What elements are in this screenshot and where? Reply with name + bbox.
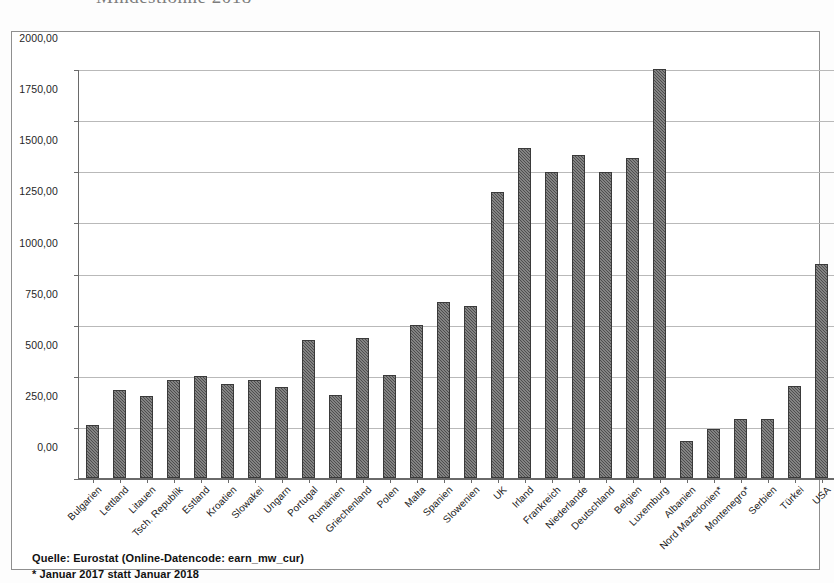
bar: [761, 419, 774, 478]
x-tick: [174, 478, 175, 483]
gridline-1000: [79, 275, 834, 276]
x-tick: [390, 478, 391, 483]
gridline-1750: [79, 121, 834, 122]
gridline-500: [79, 377, 834, 378]
x-tick: [741, 478, 742, 483]
x-axis-label: UK: [491, 484, 509, 502]
x-tick: [714, 478, 715, 483]
x-tick: [336, 478, 337, 483]
x-tick: [606, 478, 607, 483]
y-tick-1250: [74, 223, 79, 224]
chart-title: Mindestlöhne 2018: [96, 0, 396, 6]
x-tick: [93, 478, 94, 483]
bar: [410, 325, 423, 478]
x-tick: [471, 478, 472, 483]
gridline-750: [79, 326, 834, 327]
bar: [572, 155, 585, 478]
bar: [86, 425, 99, 478]
bar: [383, 375, 396, 478]
page-background: Mindestlöhne 2018 BulgarienLettlandLitau…: [0, 0, 834, 583]
bar: [302, 340, 315, 478]
bar: [680, 441, 693, 478]
bar: [167, 380, 180, 478]
bar: [221, 384, 234, 478]
y-axis-label: 250,00: [25, 390, 58, 402]
y-axis-label: 0,00: [37, 441, 58, 453]
y-tick-750: [74, 326, 79, 327]
y-tick-250: [74, 428, 79, 429]
x-axis-label: Bulgarien: [65, 484, 103, 522]
y-tick-1000: [74, 275, 79, 276]
bar: [329, 395, 342, 478]
bar: [437, 302, 450, 478]
x-tick: [660, 478, 661, 483]
bar: [140, 396, 153, 478]
x-tick: [120, 478, 121, 483]
x-tick: [201, 478, 202, 483]
x-tick: [687, 478, 688, 483]
y-axis-label: 1000,00: [19, 237, 58, 249]
y-axis-label: 1750,00: [19, 83, 58, 95]
x-axis-label: USA: [810, 484, 833, 507]
y-axis-label: 500,00: [25, 339, 58, 351]
y-tick-500: [74, 377, 79, 378]
x-tick: [498, 478, 499, 483]
footnote-note: * Januar 2017 statt Januar 2018: [32, 566, 304, 582]
bar: [248, 380, 261, 478]
y-tick-0: [74, 479, 79, 480]
x-tick: [282, 478, 283, 483]
x-tick: [633, 478, 634, 483]
x-tick: [147, 478, 148, 483]
bar: [815, 264, 828, 478]
gridline-250: [79, 428, 834, 429]
x-tick: [309, 478, 310, 483]
x-tick: [579, 478, 580, 483]
y-axis-label: 1500,00: [19, 134, 58, 146]
bar: [113, 390, 126, 478]
x-tick: [552, 478, 553, 483]
bar: [356, 338, 369, 478]
x-axis-label: Türkei: [777, 484, 805, 512]
bar: [518, 148, 531, 478]
x-axis-label: Serbien: [746, 484, 779, 517]
y-tick-1750: [74, 121, 79, 122]
gridline-1250: [79, 223, 834, 224]
x-tick: [822, 478, 823, 483]
x-tick: [228, 478, 229, 483]
x-tick: [768, 478, 769, 483]
plot-inner: [79, 70, 834, 478]
gridline-1500: [79, 172, 834, 173]
bar: [545, 172, 558, 478]
bar: [626, 158, 639, 478]
footnote-source: Quelle: Eurostat (Online-Datencode: earn…: [32, 550, 304, 566]
x-tick: [255, 478, 256, 483]
x-tick: [363, 478, 364, 483]
bar: [707, 429, 720, 478]
x-tick: [795, 478, 796, 483]
x-tick: [444, 478, 445, 483]
x-axis-label: Polen: [374, 484, 400, 510]
gridline-2000: [79, 70, 834, 71]
y-axis-label: 750,00: [25, 288, 58, 300]
bar: [464, 306, 477, 478]
bar: [734, 419, 747, 478]
x-axis-labels: BulgarienLettlandLitauenTsch. RepublikEs…: [78, 484, 834, 546]
bar: [653, 69, 666, 478]
x-tick: [417, 478, 418, 483]
gridline-0: [79, 479, 834, 480]
bar: [599, 172, 612, 478]
chart-frame: BulgarienLettlandLitauenTsch. RepublikEs…: [11, 31, 820, 570]
y-axis-label: 2000,00: [19, 32, 58, 44]
bar: [194, 376, 207, 478]
footnotes: Quelle: Eurostat (Online-Datencode: earn…: [32, 550, 304, 582]
plot-area: [78, 70, 834, 479]
y-tick-1500: [74, 172, 79, 173]
x-tick: [525, 478, 526, 483]
bar: [275, 387, 288, 478]
y-axis-label: 1250,00: [19, 185, 58, 197]
bar: [788, 386, 801, 478]
bar: [491, 192, 504, 479]
y-tick-2000: [74, 70, 79, 71]
